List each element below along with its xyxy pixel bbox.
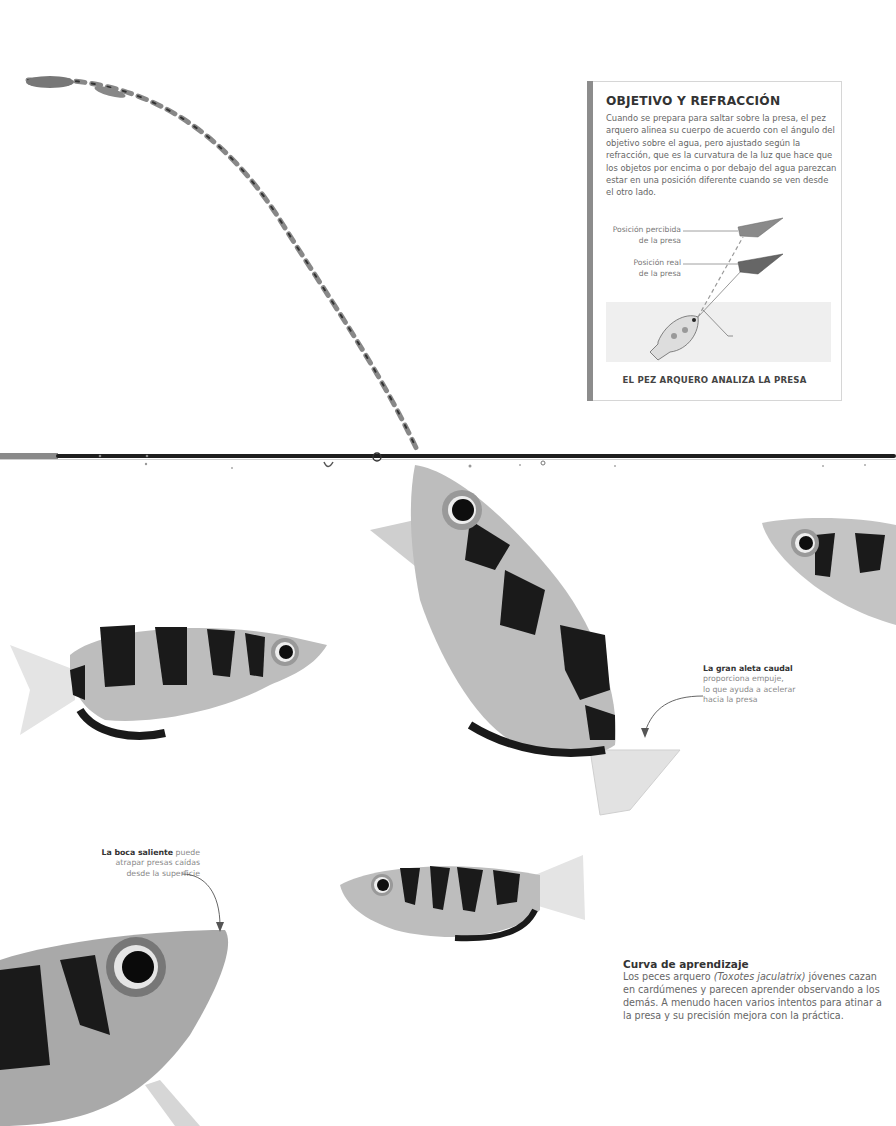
archerfish-small-image: [335, 850, 595, 960]
archerfish-left-image: [5, 615, 335, 745]
info-box-body: Cuando se prepara para saltar sobre la p…: [606, 112, 838, 199]
archerfish-closeup-image: [0, 925, 240, 1126]
tail-fin-pointer-arrow: [615, 690, 705, 745]
mouth-pointer-arrow: [180, 868, 230, 933]
archerfish-right-image: [760, 515, 896, 630]
info-box-title: OBJETIVO Y REFRACCIÓN: [606, 94, 780, 108]
learning-curve-title: Curva de aprendizaje: [623, 958, 883, 970]
mouth-annotation-title: La boca saliente: [101, 848, 173, 857]
learning-curve-body: Los peces arquero (Toxotes jaculatrix) j…: [623, 970, 883, 1022]
water-jet-arc: [0, 70, 440, 460]
tail-fin-annotation-title: La gran aleta caudal: [703, 664, 793, 673]
refraction-diagram: [588, 212, 843, 372]
learning-curve-section: Curva de aprendizaje Los peces arquero (…: [623, 958, 883, 1022]
refraction-info-box: OBJETIVO Y REFRACCIÓN Cuando se prepara …: [587, 81, 842, 401]
archerfish-central-image: [360, 460, 690, 820]
tail-fin-annotation: La gran aleta caudal proporciona empuje,…: [703, 664, 795, 706]
info-box-caption: EL PEZ ARQUERO ANALIZA LA PRESA: [588, 375, 841, 385]
